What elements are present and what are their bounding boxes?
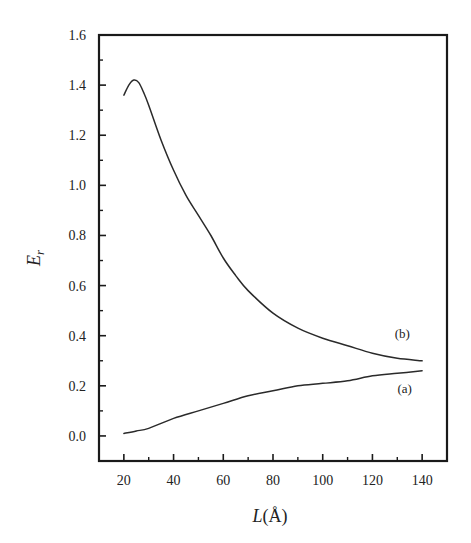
y-tick-label: 1.6 — [69, 28, 87, 43]
y-tick-label: 1.2 — [69, 128, 87, 143]
line-chart: 0.00.20.40.60.81.01.21.41.6 204060801001… — [0, 0, 471, 543]
x-axis-label-unit: (Å) — [263, 506, 288, 527]
y-tick-label: 0.4 — [69, 329, 87, 344]
x-tick-label: 20 — [117, 473, 131, 488]
x-axis-label: L(Å) — [251, 506, 287, 527]
x-tick-label: 80 — [266, 473, 280, 488]
y-tick-label: 0.8 — [69, 228, 87, 243]
x-axis-label-var: L — [251, 506, 262, 526]
plot-frame — [99, 35, 447, 461]
y-tick-label: 0.6 — [69, 279, 87, 294]
y-axis-ticks: 0.00.20.40.60.81.01.21.41.6 — [69, 28, 107, 444]
y-axis-label-sub: r — [32, 249, 47, 255]
series-label-b: (b) — [395, 326, 410, 341]
y-tick-label: 1.0 — [69, 178, 87, 193]
y-tick-label: 0.2 — [69, 379, 87, 394]
x-tick-label: 140 — [412, 473, 433, 488]
plot-border — [99, 35, 447, 461]
series-lines — [124, 80, 422, 433]
x-tick-label: 40 — [167, 473, 181, 488]
series-labels: (b)(a) — [395, 326, 412, 396]
y-axis-label-var: E — [24, 255, 44, 267]
series-label-a: (a) — [398, 381, 412, 396]
x-tick-label: 60 — [216, 473, 230, 488]
x-axis-ticks: 20406080100120140 — [117, 454, 433, 488]
y-tick-label: 1.4 — [69, 78, 87, 93]
y-tick-label: 0.0 — [69, 429, 87, 444]
y-axis-label: Er — [24, 249, 47, 267]
series-line-a — [124, 371, 422, 434]
series-line-b — [124, 80, 422, 361]
x-tick-label: 100 — [312, 473, 333, 488]
x-tick-label: 120 — [362, 473, 383, 488]
